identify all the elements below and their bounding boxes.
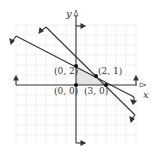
label-point-0-2: (0, 2): [54, 66, 78, 76]
label-point-0-0: (0, 0): [54, 86, 78, 96]
label-point-2-1: (2, 1): [98, 66, 122, 76]
x-axis-label: x: [143, 89, 149, 100]
graph: x y (0, 2) (2, 1) (0, 0) (3, 0): [0, 0, 156, 153]
y-axis-label: y: [65, 8, 72, 19]
label-point-3-0: (3, 0): [84, 86, 108, 96]
